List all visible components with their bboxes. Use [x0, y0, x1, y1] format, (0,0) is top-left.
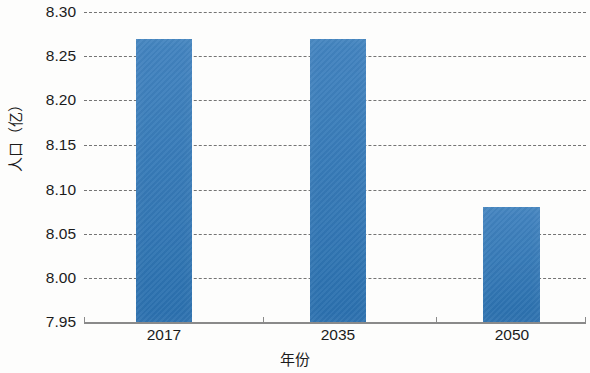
y-tick-label: 8.30 — [20, 4, 76, 20]
x-axis-tick — [585, 317, 586, 324]
plot-area — [84, 12, 586, 322]
bar-2035 — [310, 39, 366, 322]
x-tick-label-2050: 2050 — [452, 326, 572, 345]
y-tick-label: 8.05 — [20, 226, 76, 242]
y-tick-label: 8.10 — [20, 182, 76, 198]
y-tick-label: 8.15 — [20, 137, 76, 153]
x-tick-label-2017: 2017 — [104, 326, 224, 345]
y-axis-tick-labels: 8.30 8.25 8.20 8.15 8.10 8.05 8.00 7.95 — [18, 0, 76, 373]
gridline — [84, 12, 586, 13]
bar-2017 — [136, 39, 192, 322]
y-tick-label: 8.20 — [20, 92, 76, 108]
y-tick-label: 8.00 — [20, 270, 76, 286]
x-axis-tick — [84, 317, 85, 324]
x-axis-tick — [436, 317, 437, 324]
bar-2050 — [483, 207, 540, 322]
x-axis-line — [84, 322, 586, 324]
y-tick-label: 8.25 — [20, 48, 76, 64]
bar-chart: 人口（亿） 8.30 8.25 8.20 8.15 8.10 8.05 8.00… — [0, 0, 590, 373]
y-tick-label: 7.95 — [20, 314, 76, 330]
x-axis-title: 年份 — [0, 348, 590, 369]
x-axis-tick — [263, 317, 264, 324]
x-tick-label-2035: 2035 — [278, 326, 398, 345]
